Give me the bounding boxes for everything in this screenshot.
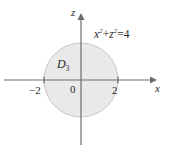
- tick-label-positive-two: 2: [112, 85, 118, 96]
- region-label-subscript: 3: [66, 64, 70, 73]
- z-axis-label: z: [71, 7, 75, 18]
- math-figure-disk-d3: z x −2 2 0 D3 x2+z2=4: [0, 0, 169, 149]
- figure-canvas: [0, 0, 169, 149]
- origin-label: 0: [70, 84, 76, 95]
- equation-value: 4: [124, 28, 130, 40]
- tick-label-negative-two: −2: [29, 85, 41, 96]
- z-axis-arrowhead: [77, 13, 84, 20]
- region-label-base: D: [57, 57, 66, 71]
- circle-equation-label: x2+z2=4: [94, 28, 129, 40]
- x-axis-label: x: [155, 83, 160, 94]
- region-label-d3: D3: [57, 58, 69, 73]
